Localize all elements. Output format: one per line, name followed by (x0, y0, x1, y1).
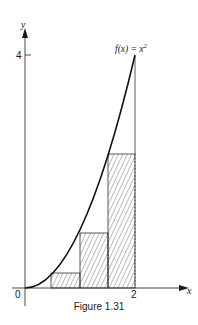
x-axis-label: x (186, 285, 192, 296)
origin-label: 0 (15, 289, 21, 300)
y-axis-label: y (20, 19, 26, 30)
function-label-base: f(x) = x (115, 44, 144, 55)
rectangle-1 (51, 273, 80, 288)
rectangle-2 (80, 233, 108, 288)
figure-caption: Figure 1.31 (0, 301, 198, 312)
riemann-rectangles (51, 154, 135, 288)
y-tick-label: 4 (16, 50, 22, 61)
function-label-exponent: 2 (144, 42, 148, 50)
function-label: f(x) = x2 (115, 42, 148, 55)
x-tick-label: 2 (131, 289, 137, 300)
rectangle-3 (108, 154, 135, 288)
figure-canvas: y 4 0 2 x f(x) = x2 (0, 0, 198, 325)
